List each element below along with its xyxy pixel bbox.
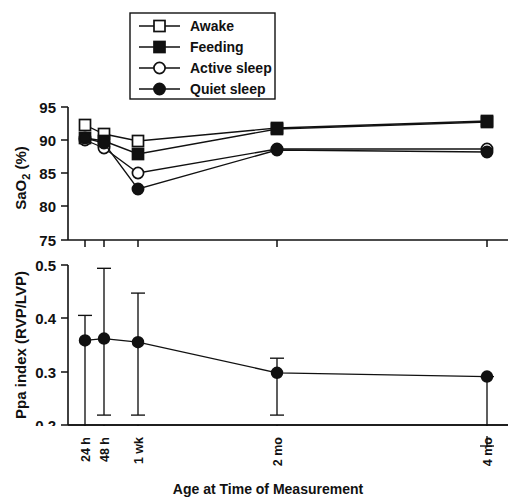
legend-label-quiet-sleep: Quiet sleep: [190, 81, 265, 97]
point-quiet-2mo: [271, 144, 282, 155]
point-quiet-1wk: [132, 183, 143, 194]
sao2-y-axis-title: SaO2 (%): [12, 146, 32, 210]
ppa-ytick-05: 0.5: [35, 257, 56, 274]
ppa-ytick-03: 0.3: [35, 364, 56, 381]
xtick-label-1wk: 1 wk: [132, 437, 146, 464]
legend-label-feeding: Feeding: [190, 39, 244, 55]
open-square-icon: [154, 21, 165, 32]
legend-label-active-sleep: Active sleep: [190, 60, 272, 76]
point-feeding-4mo: [482, 117, 493, 128]
ppa-panel: 0.5 0.4 0.3 0.2 Ppa index (RVP/LVP): [0, 257, 515, 497]
point-active-1wk: [132, 167, 143, 178]
xtick-label-48h: 48 h: [98, 437, 112, 462]
legend-item-feeding: Feeding: [139, 39, 244, 55]
point-ppa-24h: [80, 335, 91, 346]
svg-text:SaO2 (%): SaO2 (%): [12, 146, 32, 210]
sao2-x-ticks: [85, 240, 487, 247]
errorbar-24h: [78, 315, 92, 429]
point-ppa-48h: [99, 333, 110, 344]
series-ppa-line: [85, 339, 487, 377]
sao2-panel: 95 90 85 80 75 SaO2 (%): [12, 13, 508, 249]
point-quiet-48h: [98, 137, 109, 148]
point-ppa-4mo: [482, 371, 493, 382]
ppa-error-bars: [78, 268, 494, 446]
sao2-ytick-75: 75: [39, 232, 56, 249]
figure-svg: 95 90 85 80 75 SaO2 (%): [0, 0, 515, 504]
filled-square-icon: [154, 42, 165, 53]
point-ppa-1wk: [133, 337, 144, 348]
axis-mask: [0, 426, 515, 436]
ppa-ytick-04: 0.4: [35, 310, 57, 327]
legend-item-active-sleep: Active sleep: [139, 60, 272, 76]
sao2-ytick-85: 85: [39, 165, 56, 182]
xtick-label-24h: 24 h: [79, 437, 93, 462]
point-quiet-4mo: [481, 146, 492, 157]
point-feeding-2mo: [272, 124, 283, 135]
legend: Awake Feeding Active sleep Quiet sleep: [130, 13, 275, 99]
svg-text:Ppa index (RVP/LVP): Ppa index (RVP/LVP): [12, 271, 29, 419]
point-awake-1wk: [133, 136, 144, 147]
point-ppa-2mo: [272, 367, 283, 378]
figure-container: 95 90 85 80 75 SaO2 (%): [0, 0, 515, 504]
legend-label-awake: Awake: [190, 18, 234, 34]
errorbar-1wk: [131, 293, 145, 415]
filled-circle-icon: [154, 83, 165, 94]
point-feeding-1wk: [133, 149, 144, 160]
series-ppa-index: [80, 333, 493, 382]
x-tick-labels: 24 h 48 h 1 wk 2 mo 4 mo: [79, 437, 495, 467]
point-quiet-24h: [79, 132, 90, 143]
series-quiet-sleep-line: [85, 138, 487, 189]
ppa-y-ticks: [61, 265, 68, 425]
sao2-ytick-95: 95: [39, 99, 56, 116]
sao2-ytick-90: 90: [39, 132, 56, 149]
series-active-sleep-line: [85, 140, 487, 173]
sao2-y-ticks: [61, 107, 68, 240]
series-awake: [80, 116, 493, 147]
point-awake-24h: [80, 120, 91, 131]
sao2-ytick-80: 80: [39, 198, 56, 215]
open-circle-icon: [154, 62, 165, 73]
xtick-label-2mo: 2 mo: [271, 437, 285, 467]
legend-item-quiet-sleep: Quiet sleep: [139, 81, 265, 97]
x-axis-title: Age at Time of Measurement: [173, 481, 364, 497]
xtick-label-4mo: 4 mo: [481, 437, 495, 467]
ppa-y-axis-title: Ppa index (RVP/LVP): [12, 271, 29, 419]
